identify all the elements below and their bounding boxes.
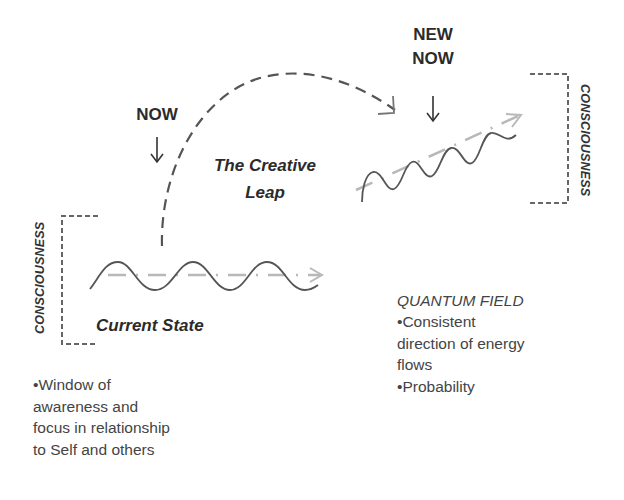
now-label: NOW bbox=[127, 104, 187, 126]
left-consciousness-bracket bbox=[62, 216, 98, 344]
note-line: •Consistent bbox=[397, 311, 597, 333]
note-line: flows bbox=[397, 354, 597, 376]
note-line: direction of energy bbox=[397, 333, 597, 355]
new-state-wave bbox=[362, 133, 516, 202]
leap-arrowhead-icon bbox=[378, 96, 394, 114]
new-direction-arrow bbox=[356, 114, 521, 190]
creative-leap-label-line2: Leap bbox=[205, 181, 325, 205]
new-now-label-line2: NOW bbox=[400, 48, 466, 70]
note-line: •Probability bbox=[397, 376, 597, 398]
note-line: to Self and others bbox=[33, 439, 233, 461]
current-state-notes: •Window of awareness and focus in relati… bbox=[33, 374, 233, 460]
right-consciousness-bracket bbox=[530, 74, 568, 203]
consciousness-left-label: CONSCIOUSNESS bbox=[33, 224, 47, 334]
consciousness-right-label: CONSCIOUSNESS bbox=[578, 84, 592, 194]
creative-leap-label-line1: The Creative bbox=[205, 154, 325, 178]
new-now-label-line1: NEW bbox=[400, 24, 466, 46]
quantum-field-title: QUANTUM FIELD bbox=[397, 290, 597, 311]
quantum-field-notes: QUANTUM FIELD •Consistent direction of e… bbox=[397, 290, 597, 397]
current-state-label: Current State bbox=[96, 314, 216, 338]
note-line: focus in relationship bbox=[33, 417, 233, 439]
now-down-arrow-icon bbox=[151, 137, 163, 162]
note-line: •Window of bbox=[33, 374, 233, 396]
note-line: awareness and bbox=[33, 396, 233, 418]
new-now-down-arrow-icon bbox=[427, 96, 439, 121]
